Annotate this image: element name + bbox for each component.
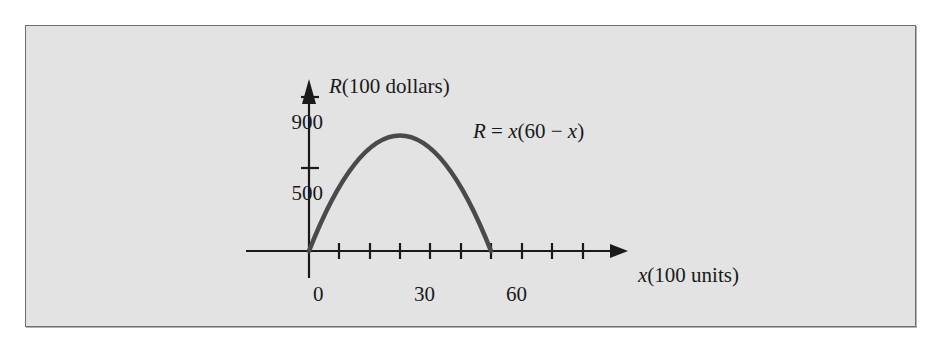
equation-rhs-variable: x (508, 119, 517, 143)
curve-equation-label: R = x(60 − x) (473, 121, 584, 142)
revenue-curve (309, 136, 491, 252)
x-tick-label-30: 30 (414, 284, 435, 305)
equation-equals: = (491, 119, 503, 143)
y-tick-label-900: 900 (278, 112, 323, 133)
y-axis-caption: R(100 dollars) (329, 76, 450, 97)
equation-lhs: R (473, 119, 486, 143)
y-axis-symbol: R (329, 74, 342, 98)
equation-rhs-expression: (60 − x) (518, 119, 585, 143)
y-axis-units: (100 dollars) (342, 74, 450, 98)
x-axis-units: (100 units) (647, 263, 739, 287)
x-axis-arrowhead (610, 244, 628, 258)
x-tick-label-0: 0 (313, 284, 324, 305)
x-axis-caption: x(100 units) (638, 265, 739, 286)
x-tick-label-60: 60 (506, 284, 527, 305)
figure-root: R(100 dollars) x(100 units) R = x(60 − x… (0, 0, 942, 352)
figure-panel: R(100 dollars) x(100 units) R = x(60 − x… (25, 25, 916, 327)
y-tick-label-500: 500 (278, 183, 323, 204)
x-axis-symbol: x (638, 263, 647, 287)
y-axis-arrowhead (302, 79, 316, 104)
plot-area (26, 26, 917, 328)
